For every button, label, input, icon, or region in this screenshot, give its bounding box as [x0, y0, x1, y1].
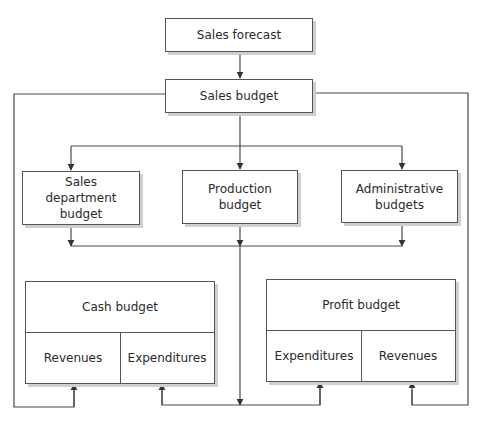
production-budget-line2: budget — [219, 197, 262, 213]
cash-budget-title: Cash budget — [26, 282, 214, 333]
administrative-budgets-box: Administrative budgets — [341, 170, 458, 223]
sales-budget-box: Sales budget — [165, 79, 313, 113]
sales-department-budget-line1: Sales — [65, 174, 97, 190]
profit-budget-title: Profit budget — [267, 280, 455, 331]
profit-budget-box: Profit budget Expenditures Revenues — [266, 279, 456, 382]
cash-budget-expenditures: Expenditures — [120, 332, 214, 383]
sales-forecast-label: Sales forecast — [197, 27, 281, 43]
cash-budget-box: Cash budget Revenues Expenditures — [25, 281, 215, 384]
profit-budget-expenditures: Expenditures — [267, 330, 362, 381]
cash-budget-revenues: Revenues — [26, 332, 121, 383]
production-budget-line1: Production — [208, 181, 272, 197]
line-expenditure-connector — [162, 382, 320, 405]
sales-department-budget-line2: department budget — [23, 190, 139, 222]
sales-forecast-box: Sales forecast — [165, 18, 313, 52]
sales-budget-label: Sales budget — [200, 88, 278, 104]
production-budget-box: Production budget — [182, 170, 298, 224]
administrative-budgets-line2: budgets — [375, 197, 424, 213]
administrative-budgets-line1: Administrative — [356, 181, 443, 197]
profit-budget-revenues: Revenues — [361, 330, 455, 381]
sales-department-budget-box: Sales department budget — [22, 171, 140, 225]
